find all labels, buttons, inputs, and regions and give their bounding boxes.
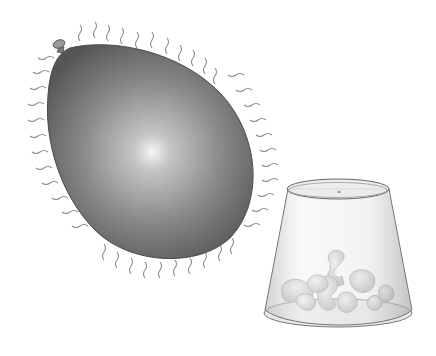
illustration-scene [0,0,436,356]
balloon-knot [52,38,66,53]
inverted-cup [264,179,412,327]
scene-svg [0,0,436,356]
